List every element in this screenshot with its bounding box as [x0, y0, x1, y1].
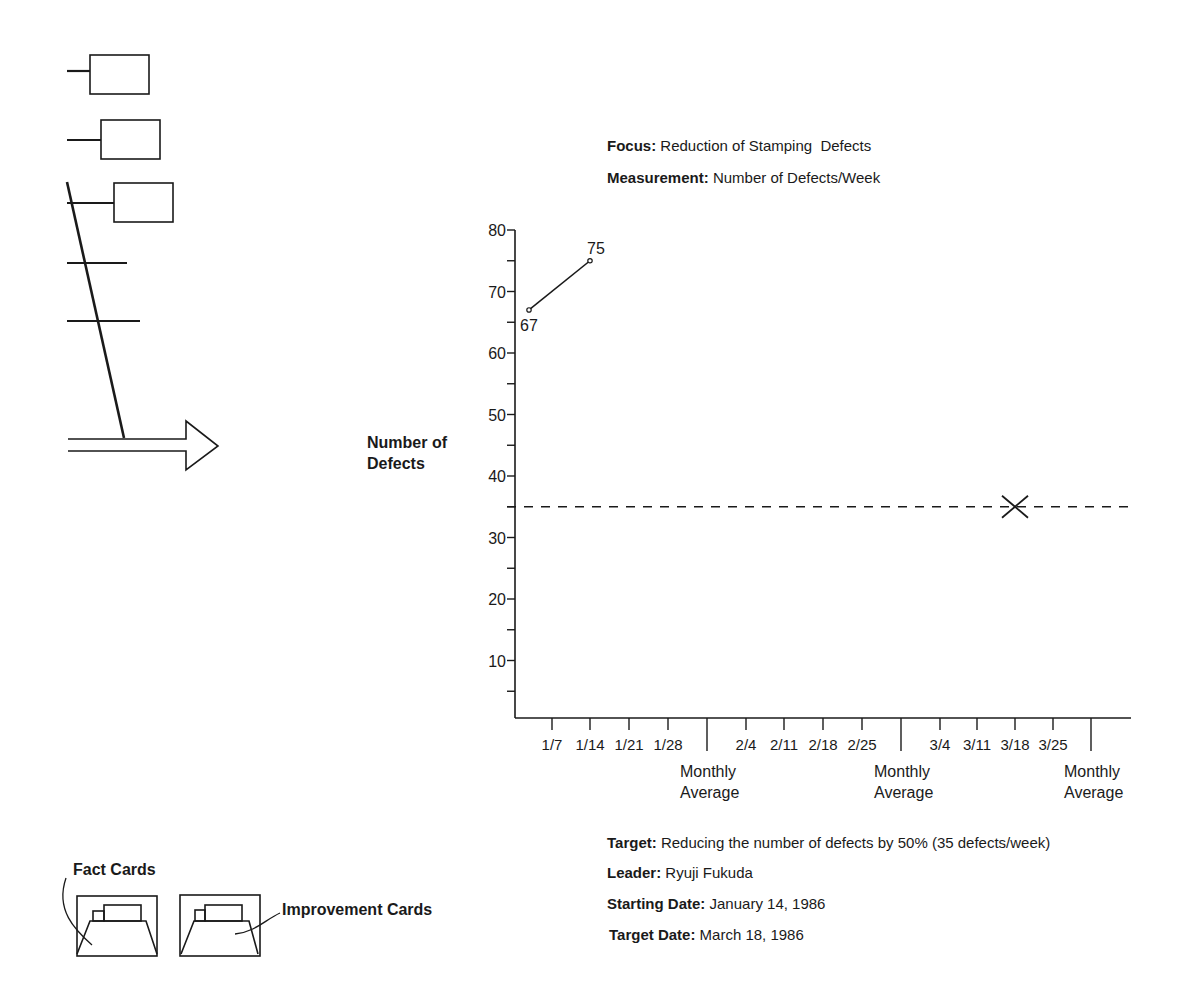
- x-tick-label: 3/25: [1038, 736, 1067, 753]
- target-date-value: March 18, 1986: [700, 926, 804, 943]
- x-tick-label: 1/7: [542, 736, 563, 753]
- series-line: [529, 261, 590, 310]
- fact-cards-label: Fact Cards: [73, 861, 156, 879]
- target-value: Reducing the number of defects by 50% (3…: [661, 834, 1050, 851]
- y-tick-label: 80: [488, 222, 506, 239]
- data-point: [588, 259, 592, 263]
- data-point-label: 67: [520, 317, 538, 334]
- target-date-label: Target Date:: [609, 926, 695, 943]
- data-point-label: 75: [587, 240, 605, 257]
- target-date-line: Target Date: March 18, 1986: [609, 926, 804, 943]
- x-tick-label-monthly: Monthly: [874, 763, 930, 780]
- y-tick-label: 20: [488, 591, 506, 608]
- x-tick-label: 2/25: [847, 736, 876, 753]
- leader-value: Ryuji Fukuda: [665, 864, 753, 881]
- x-tick-label-average: Average: [874, 784, 933, 801]
- x-tick-label: 1/21: [614, 736, 643, 753]
- x-tick-label: 2/4: [736, 736, 757, 753]
- x-tick-label: 3/18: [1000, 736, 1029, 753]
- y-tick-label: 60: [488, 345, 506, 362]
- leader-label: Leader:: [607, 864, 661, 881]
- y-tick-label: 10: [488, 653, 506, 670]
- leader-line: Leader: Ryuji Fukuda: [607, 864, 753, 881]
- x-tick-label-monthly: Monthly: [680, 763, 736, 780]
- starting-date-label: Starting Date:: [607, 895, 705, 912]
- data-point: [527, 308, 531, 312]
- target-label: Target:: [607, 834, 657, 851]
- defects-line-chart: 10203040506070801/71/141/211/28MonthlyAv…: [0, 0, 1191, 820]
- x-tick-label: 2/11: [770, 736, 798, 753]
- improvement-cards-label: Improvement Cards: [282, 901, 432, 919]
- target-line: Target: Reducing the number of defects b…: [607, 834, 1050, 851]
- starting-date-value: January 14, 1986: [710, 895, 826, 912]
- x-tick-label: 1/28: [653, 736, 682, 753]
- x-tick-label: 2/18: [808, 736, 837, 753]
- y-tick-label: 30: [488, 530, 506, 547]
- x-tick-label-average: Average: [680, 784, 739, 801]
- y-tick-label: 50: [488, 407, 506, 424]
- x-tick-label: 3/4: [930, 736, 951, 753]
- y-tick-label: 70: [488, 284, 506, 301]
- x-tick-label: 3/11: [963, 736, 991, 753]
- y-tick-label: 40: [488, 468, 506, 485]
- x-tick-label-average: Average: [1064, 784, 1123, 801]
- x-tick-label-monthly: Monthly: [1064, 763, 1120, 780]
- x-tick-label: 1/14: [575, 736, 604, 753]
- starting-date-line: Starting Date: January 14, 1986: [607, 895, 825, 912]
